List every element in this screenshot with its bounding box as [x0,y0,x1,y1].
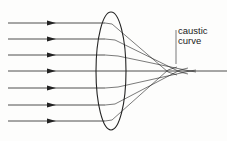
arrow-icon [47,21,56,26]
arrow-icon [47,86,56,91]
label-line-2: curve [178,36,208,46]
arrow-icon [47,119,56,124]
arrow-icon [47,37,56,42]
caustic-curve-label: caustic curve [178,26,208,46]
arrow-icon [47,103,56,108]
arrow-icon [47,69,56,74]
arrowheads [47,21,56,124]
lens-diagram [0,0,227,141]
arrow-icon [47,53,56,58]
